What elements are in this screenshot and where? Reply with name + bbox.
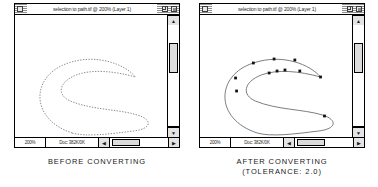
caption-after: AFTER CONVERTING (TOLERANCE: 2.0) <box>199 157 365 177</box>
anchor-point[interactable] <box>284 69 287 72</box>
window-body: ▲ ▼ <box>200 15 364 137</box>
scroll-right-button[interactable]: ▶ <box>353 138 364 147</box>
anchor-point[interactable] <box>252 62 255 65</box>
vertical-scroll-track[interactable] <box>353 25 364 127</box>
doc-size-field[interactable]: Doc: 382K/0K <box>231 138 284 147</box>
window-titlebar[interactable]: selection to path.tif @ 200% (Layer 1) <box>15 4 179 15</box>
triangle-down-icon: ▼ <box>171 130 176 135</box>
bezier-path <box>225 59 333 135</box>
document-window-before[interactable]: selection to path.tif @ 200% (Layer 1) ▲ <box>14 3 180 148</box>
horizontal-scrollbar-after[interactable]: ◀ ▶ <box>284 138 364 147</box>
horizontal-scroll-thumb[interactable] <box>297 139 325 146</box>
close-box-icon[interactable] <box>17 6 23 12</box>
triangle-up-icon: ▲ <box>356 18 361 23</box>
triangle-left-icon: ◀ <box>102 140 106 145</box>
close-box-icon[interactable] <box>202 6 208 12</box>
scroll-down-button[interactable]: ▼ <box>168 127 179 137</box>
window-statusbar-after: 200% Doc: 382K/0K ◀ ▶ <box>200 137 364 147</box>
marching-ants-path <box>40 59 148 135</box>
triangle-left-icon: ◀ <box>287 140 291 145</box>
scroll-left-button[interactable]: ◀ <box>99 138 110 147</box>
anchor-point[interactable] <box>268 72 271 75</box>
zoom-box-icon[interactable] <box>347 6 353 12</box>
scroll-down-button[interactable]: ▼ <box>353 127 364 137</box>
grow-box-icon[interactable] <box>356 6 362 12</box>
horizontal-scroll-thumb[interactable] <box>112 139 140 146</box>
window-titlebar[interactable]: selection to path.tif @ 200% (Layer 1) <box>200 4 364 15</box>
triangle-right-icon: ▶ <box>172 140 176 145</box>
vertical-scrollbar-before[interactable]: ▲ ▼ <box>168 15 179 137</box>
anchor-point[interactable] <box>234 77 237 80</box>
doc-size-field[interactable]: Doc: 382K/0K <box>46 138 99 147</box>
comparison-figure: selection to path.tif @ 200% (Layer 1) ▲ <box>0 0 378 187</box>
anchor-point-group <box>234 58 326 118</box>
anchor-point[interactable] <box>235 90 238 93</box>
vertical-scrollbar-after[interactable]: ▲ ▼ <box>353 15 364 137</box>
zoom-level-field[interactable]: 200% <box>200 138 231 147</box>
anchor-point[interactable] <box>298 70 301 73</box>
window-title: selection to path.tif @ 200% (Layer 1) <box>27 4 157 15</box>
zoom-level-field[interactable]: 200% <box>15 138 46 147</box>
image-canvas-before[interactable] <box>15 15 168 137</box>
scroll-up-button[interactable]: ▲ <box>353 15 364 25</box>
horizontal-scroll-track[interactable] <box>110 138 168 147</box>
window-title: selection to path.tif @ 200% (Layer 1) <box>212 4 342 15</box>
triangle-down-icon: ▼ <box>356 130 361 135</box>
anchor-point[interactable] <box>293 59 296 62</box>
bezier-path-svg <box>200 15 352 137</box>
horizontal-scroll-track[interactable] <box>295 138 353 147</box>
panel-after: selection to path.tif @ 200% (Layer 1) ▲ <box>199 3 365 177</box>
triangle-right-icon: ▶ <box>357 140 361 145</box>
panel-before: selection to path.tif @ 200% (Layer 1) ▲ <box>14 3 180 167</box>
scroll-left-button[interactable]: ◀ <box>284 138 295 147</box>
vertical-scroll-thumb[interactable] <box>169 43 178 73</box>
anchor-point[interactable] <box>276 70 279 73</box>
vertical-scroll-track[interactable] <box>168 25 179 127</box>
scroll-right-button[interactable]: ▶ <box>168 138 179 147</box>
scroll-up-button[interactable]: ▲ <box>168 15 179 25</box>
caption-before: BEFORE CONVERTING <box>14 157 180 167</box>
caption-line-1: BEFORE CONVERTING <box>48 157 146 166</box>
window-statusbar-before: 200% Doc: 382K/0K ◀ ▶ <box>15 137 179 147</box>
selection-outline-svg <box>15 15 167 137</box>
anchor-point[interactable] <box>273 58 276 61</box>
image-canvas-after[interactable] <box>200 15 353 137</box>
triangle-up-icon: ▲ <box>171 18 176 23</box>
vertical-scroll-thumb[interactable] <box>354 43 363 73</box>
document-window-after[interactable]: selection to path.tif @ 200% (Layer 1) ▲ <box>199 3 365 148</box>
grow-box-icon[interactable] <box>171 6 177 12</box>
zoom-box-icon[interactable] <box>162 6 168 12</box>
caption-line-2: (TOLERANCE: 2.0) <box>199 167 365 177</box>
anchor-point[interactable] <box>323 115 326 118</box>
window-body: ▲ ▼ <box>15 15 179 137</box>
caption-line-1: AFTER CONVERTING <box>237 157 328 166</box>
horizontal-scrollbar-before[interactable]: ◀ ▶ <box>99 138 179 147</box>
anchor-point[interactable] <box>319 76 322 79</box>
